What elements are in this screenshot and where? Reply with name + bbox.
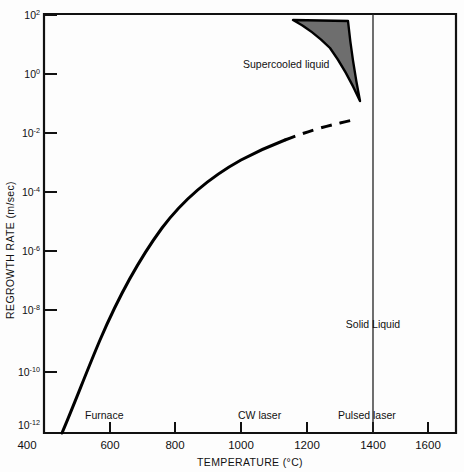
x-label-1200: 1200	[294, 439, 320, 451]
annotation-cw-laser: CW laser	[238, 409, 282, 421]
plot-frame	[44, 14, 456, 433]
x-axis-title: TEMPERATURE (°C)	[197, 456, 303, 468]
y-label-2: 102	[24, 8, 40, 21]
x-label-800: 800	[165, 439, 184, 451]
y-label-neg4: 10-4	[22, 185, 40, 198]
y-label-neg8: 10-8	[22, 303, 40, 316]
x-axis-labels: 400 600 800 1000 1200 1400 1600	[17, 439, 440, 451]
x-label-600: 600	[100, 439, 119, 451]
annotation-pulsed-laser: Pulsed laser	[338, 409, 396, 421]
annotation-solid-liquid: Solid Liquid	[346, 318, 400, 330]
regrowth-rate-chart: 102 100 10-2 10-4 10-6 10-8 10-10 10-12	[0, 0, 464, 472]
y-label-0: 100	[24, 67, 40, 80]
regrowth-curve-dashed	[285, 119, 357, 140]
y-label-neg12: 10-12	[18, 418, 40, 431]
y-axis-title: REGROWTH RATE (m/sec)	[4, 181, 16, 319]
annotation-supercooled-liquid: Supercooled liquid	[243, 58, 330, 70]
x-axis-ticks	[44, 422, 428, 433]
y-axis-labels: 102 100 10-2 10-4 10-6 10-8 10-10 10-12	[18, 8, 40, 431]
regrowth-curve-solid	[62, 140, 285, 433]
x-label-400: 400	[17, 439, 36, 451]
annotation-furnace: Furnace	[85, 409, 124, 421]
y-label-neg6: 10-6	[22, 244, 40, 257]
y-label-neg10: 10-10	[18, 365, 40, 378]
chart-svg: 102 100 10-2 10-4 10-6 10-8 10-10 10-12	[0, 0, 464, 472]
y-axis-ticks	[44, 15, 57, 372]
x-label-1000: 1000	[228, 439, 254, 451]
y-label-neg2: 10-2	[22, 126, 40, 139]
x-label-1400: 1400	[360, 439, 386, 451]
x-label-1600: 1600	[415, 439, 441, 451]
